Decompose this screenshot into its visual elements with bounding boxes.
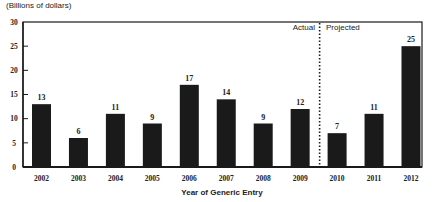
y-tick-label: 0 [12,163,16,172]
x-tick-label: 2004 [108,174,123,183]
bar-rect [365,114,384,167]
bar-2011: 11 [365,103,384,167]
bar-value-label: 12 [296,98,304,107]
bar-rect [69,138,88,167]
y-axis-ticks: 051015202530 [10,18,28,172]
x-tick-label: 2012 [404,174,419,183]
bar-2002: 13 [32,93,51,167]
x-tick-label: 2011 [367,174,382,183]
y-tick-label: 20 [10,66,18,75]
x-axis-title: Year of Generic Entry [181,188,263,197]
actual-label: Actual [293,23,315,32]
bar-chart: 051015202530 136119171491271125 20022003… [0,0,435,202]
bar-rect [328,133,347,167]
y-tick-label: 30 [10,18,18,27]
bar-value-label: 14 [222,88,230,97]
bar-value-label: 17 [185,74,193,83]
x-tick-label: 2005 [145,174,160,183]
x-tick-label: 2002 [34,174,49,183]
bar-rect [291,109,310,167]
bar-value-label: 9 [261,113,265,122]
y-tick-label: 25 [10,42,18,51]
bar-rect [254,124,273,168]
bar-rect [32,104,51,167]
bar-2004: 11 [106,103,125,167]
bar-2009: 12 [291,98,310,167]
x-axis-tick-labels: 2002200320042005200620072008200920102011… [34,174,419,183]
x-tick-label: 2007 [219,174,234,183]
bar-2008: 9 [254,113,273,168]
x-tick-label: 2009 [293,174,308,183]
bar-value-label: 7 [335,122,339,131]
bar-value-label: 6 [76,127,80,136]
y-tick-label: 15 [10,90,18,99]
bar-rect [106,114,125,167]
bar-value-label: 13 [38,93,46,102]
bar-rect [217,99,236,167]
bar-value-label: 11 [370,103,378,112]
bar-2007: 14 [217,88,236,167]
bars: 136119171491271125 [32,35,421,167]
y-tick-label: 10 [10,114,18,123]
bar-2003: 6 [69,127,88,167]
bar-value-label: 9 [150,113,154,122]
bar-rect [402,46,421,167]
bar-2010: 7 [328,122,347,167]
bar-rect [180,85,199,167]
bar-2012: 25 [402,35,421,167]
bar-rect [143,124,162,168]
x-tick-label: 2008 [256,174,271,183]
bar-value-label: 25 [407,35,415,44]
x-tick-label: 2010 [330,174,345,183]
x-tick-label: 2006 [182,174,197,183]
bar-value-label: 11 [112,103,120,112]
bar-2006: 17 [180,74,199,167]
x-tick-label: 2003 [71,174,86,183]
y-tick-label: 5 [12,139,16,148]
projected-label: Projected [326,23,360,32]
bar-2005: 9 [143,113,162,168]
